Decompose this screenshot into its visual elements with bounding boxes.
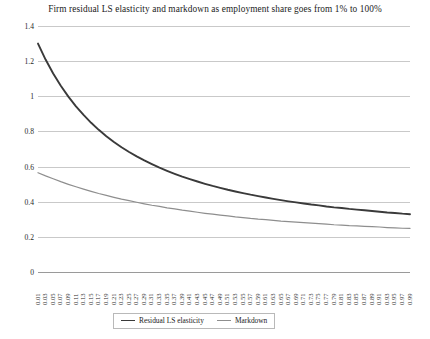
x-axis-tick-label: 0.11 (72, 294, 79, 305)
y-axis-tick-label: 1.2 (2, 57, 34, 66)
x-axis-tick-label: 0.87 (360, 293, 367, 305)
x-axis-tick-label: 0.43 (193, 293, 200, 305)
x-axis-tick-label: 0.25 (125, 293, 132, 305)
x-axis-tick-label: 0.27 (132, 293, 139, 305)
x-axis-tick-label: 0.15 (87, 293, 94, 305)
x-axis-tick-label: 0.77 (322, 293, 329, 305)
legend-item-markdown: Markdown (217, 316, 267, 325)
x-axis-tick-label: 0.85 (352, 293, 359, 305)
x-axis-tick-label: 0.45 (201, 293, 208, 305)
x-axis-tick-label: 0.53 (231, 293, 238, 305)
y-axis-tick-label: 1.4 (2, 22, 34, 31)
x-axis-tick-label: 0.55 (239, 293, 246, 305)
y-axis-tick-label: 0.6 (2, 163, 34, 172)
y-axis-tick-label: 0 (2, 268, 34, 277)
plot-area (38, 26, 410, 272)
x-axis-tick-label: 0.97 (398, 293, 405, 305)
y-axis-tick-label: 1 (2, 92, 34, 101)
x-axis-tick-label: 0.21 (110, 293, 117, 305)
x-axis-tick-label: 0.41 (185, 293, 192, 305)
x-axis-tick-label: 0.05 (49, 293, 56, 305)
x-axis-tick-label: 0.99 (406, 293, 413, 305)
chart-container: Firm residual LS elasticity and markdown… (0, 0, 430, 339)
y-axis-tick-label: 0.8 (2, 127, 34, 136)
x-axis-tick-label: 0.73 (307, 293, 314, 305)
x-axis-tick-label: 0.13 (79, 293, 86, 305)
x-axis-tick-label: 0.89 (368, 293, 375, 305)
series-line-2 (38, 173, 410, 229)
legend-label-series2: Markdown (235, 316, 267, 325)
x-axis-tick-label: 0.17 (94, 293, 101, 305)
series-lines-group (38, 26, 410, 272)
x-axis-tick-label: 0.49 (216, 293, 223, 305)
legend-line-icon-series2 (217, 320, 231, 321)
series-line-1 (38, 44, 410, 215)
x-axis-tick-label: 0.33 (155, 293, 162, 305)
x-axis-tick-label: 0.09 (64, 293, 71, 305)
x-axis-tick-label: 0.19 (102, 293, 109, 305)
x-axis-tick-label: 0.01 (34, 293, 41, 305)
x-axis-tick-label: 0.95 (390, 293, 397, 305)
x-axis-tick-label: 0.71 (299, 293, 306, 305)
legend-line-icon-series1 (121, 320, 135, 322)
x-axis-tick-label: 0.07 (56, 293, 63, 305)
x-axis-tick-label: 0.47 (208, 293, 215, 305)
x-axis-tick-label: 0.37 (170, 293, 177, 305)
x-axis-tick-label: 0.51 (223, 293, 230, 305)
x-axis-labels: 0.010.030.050.070.090.110.130.150.170.19… (38, 273, 410, 305)
x-axis-tick-label: 0.63 (269, 293, 276, 305)
x-axis-tick-label: 0.75 (314, 293, 321, 305)
x-axis-tick-label: 0.29 (140, 293, 147, 305)
chart-legend: Residual LS elasticity Markdown (113, 313, 275, 329)
x-axis-tick-label: 0.91 (375, 293, 382, 305)
y-axis-tick-label: 0.2 (2, 233, 34, 242)
x-axis-tick-label: 0.79 (330, 293, 337, 305)
legend-label-series1: Residual LS elasticity (139, 316, 204, 325)
x-axis-tick-label: 0.83 (345, 293, 352, 305)
x-axis-tick-label: 0.35 (163, 293, 170, 305)
x-axis-tick-label: 0.69 (292, 293, 299, 305)
x-axis-tick-label: 0.67 (284, 293, 291, 305)
chart-title: Firm residual LS elasticity and markdown… (0, 4, 430, 14)
legend-item-residual-ls-elasticity: Residual LS elasticity (121, 316, 204, 325)
x-axis-tick-label: 0.39 (178, 293, 185, 305)
x-axis-tick-label: 0.59 (254, 293, 261, 305)
x-axis-tick-label: 0.31 (147, 293, 154, 305)
x-axis-tick-label: 0.23 (117, 293, 124, 305)
x-axis-tick-label: 0.81 (337, 293, 344, 305)
x-axis-tick-label: 0.93 (383, 293, 390, 305)
x-axis-tick-label: 0.61 (261, 293, 268, 305)
x-axis-tick-label: 0.03 (41, 293, 48, 305)
x-axis-tick-label: 0.57 (246, 293, 253, 305)
y-axis-tick-label: 0.4 (2, 198, 34, 207)
x-axis-tick-label: 0.65 (277, 293, 284, 305)
